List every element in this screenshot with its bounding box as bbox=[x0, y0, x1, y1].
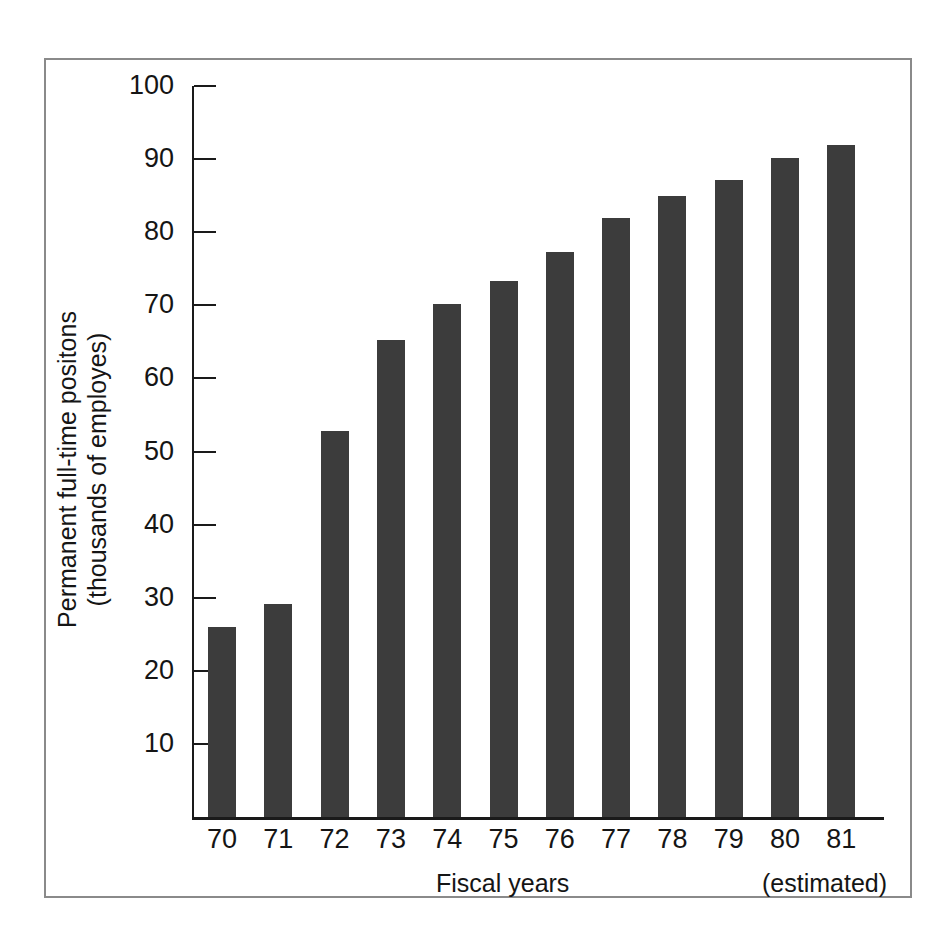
x-tick-label-77: 77 bbox=[586, 826, 646, 853]
bar-81 bbox=[827, 145, 855, 817]
bar-series bbox=[194, 86, 884, 817]
x-tick-label-74: 74 bbox=[417, 826, 477, 853]
bar-73 bbox=[377, 340, 405, 817]
figure-canvas: 102030405060708090100 707172737475767778… bbox=[0, 0, 942, 937]
y-tick-label-80: 80 bbox=[110, 218, 174, 245]
bar-72 bbox=[321, 431, 349, 817]
x-axis-estimated-note: (estimated) bbox=[762, 869, 887, 898]
bar-79 bbox=[715, 180, 743, 817]
x-tick-label-78: 78 bbox=[642, 826, 702, 853]
y-tick-label-30: 30 bbox=[110, 584, 174, 611]
x-axis-line bbox=[192, 817, 884, 820]
x-tick-label-73: 73 bbox=[361, 826, 421, 853]
bar-71 bbox=[264, 604, 292, 817]
bar-80 bbox=[771, 158, 799, 817]
y-tick-label-10: 10 bbox=[110, 730, 174, 757]
y-axis-title-line-1: Permanent full-time positons bbox=[53, 160, 83, 780]
y-tick-label-60: 60 bbox=[110, 364, 174, 391]
y-tick-label-40: 40 bbox=[110, 511, 174, 538]
bar-78 bbox=[658, 196, 686, 817]
x-tick-label-71: 71 bbox=[248, 826, 308, 853]
bar-77 bbox=[602, 218, 630, 817]
x-axis-title: Fiscal years bbox=[436, 869, 569, 898]
bar-76 bbox=[546, 252, 574, 817]
y-tick-label-70: 70 bbox=[110, 291, 174, 318]
x-tick-label-70: 70 bbox=[192, 826, 252, 853]
x-tick-label-75: 75 bbox=[474, 826, 534, 853]
x-tick-label-81: 81 bbox=[811, 826, 871, 853]
y-axis-title-line-2: (thousands of employes) bbox=[82, 160, 112, 780]
bar-74 bbox=[433, 304, 461, 817]
x-tick-label-79: 79 bbox=[699, 826, 759, 853]
y-axis-title: Permanent full-time positons (thousands … bbox=[53, 160, 112, 780]
x-tick-label-80: 80 bbox=[755, 826, 815, 853]
bar-70 bbox=[208, 627, 236, 817]
y-tick-label-20: 20 bbox=[110, 657, 174, 684]
y-tick-label-50: 50 bbox=[110, 438, 174, 465]
x-tick-label-76: 76 bbox=[530, 826, 590, 853]
bar-75 bbox=[490, 281, 518, 817]
y-tick-label-90: 90 bbox=[110, 145, 174, 172]
y-tick-label-100: 100 bbox=[110, 72, 174, 99]
x-tick-label-72: 72 bbox=[305, 826, 365, 853]
